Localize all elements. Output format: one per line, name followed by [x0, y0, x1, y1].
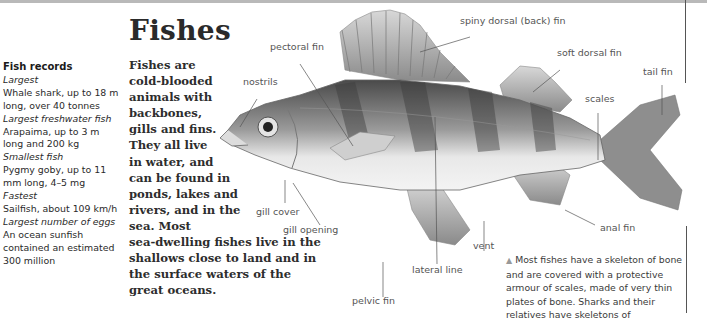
label-pectoral-fin: pectoral fin [270, 41, 324, 52]
record-value: Arapaima, up to 3 m long and 200 kg [3, 126, 121, 152]
record-label: Smallest fish [3, 151, 121, 164]
top-border [0, 0, 707, 3]
spiny-dorsal-fin-shape [340, 10, 470, 82]
record-label: Largest [3, 74, 121, 87]
record-label: Fastest [3, 190, 121, 203]
right-rule-top [685, 0, 686, 83]
record-smallest: Smallest fish Pygmy goby, up to 11 mm lo… [3, 151, 121, 190]
sidebar-heading: Fish records [3, 61, 121, 74]
record-largest-freshwater: Largest freshwater fish Arapaima, up to … [3, 113, 121, 152]
label-vent: vent [473, 240, 494, 251]
label-nostrils: nostrils [243, 76, 278, 87]
right-rule-bottom [686, 226, 687, 313]
record-value: An ocean sunfish contained an estimated … [3, 229, 121, 268]
label-spiny-dorsal-fin: spiny dorsal (back) fin [460, 15, 565, 26]
figure-caption: ▲ Most fishes have a skeleton of bone an… [506, 253, 686, 322]
record-largest: Largest Whale shark, up to 18 m long, ov… [3, 74, 121, 113]
record-value: Whale shark, up to 18 m long, over 40 to… [3, 87, 121, 113]
label-gill-cover: gill cover [256, 206, 299, 217]
record-label: Largest number of eggs [3, 216, 121, 229]
record-most-eggs: Largest number of eggs An ocean sunfish … [3, 216, 121, 268]
label-soft-dorsal-fin: soft dorsal fin [557, 47, 622, 58]
label-tail-fin: tail fin [643, 66, 673, 77]
triangle-marker-icon: ▲ [506, 256, 512, 265]
label-pelvic-fin: pelvic fin [352, 295, 395, 306]
label-lateral-line: lateral line [412, 264, 463, 275]
fish-records-sidebar: Fish records Largest Whale shark, up to … [3, 61, 121, 268]
record-label: Largest freshwater fish [3, 113, 121, 126]
intro-text-part1: Fishes are cold-blooded animals with bac… [129, 57, 223, 170]
label-gill-opening: gill opening [283, 224, 338, 235]
caption-text: Most fishes have a skeleton of bone and … [506, 254, 682, 320]
record-fastest: Fastest Sailfish, about 109 km/h [3, 190, 121, 216]
record-value: Pygmy goby, up to 11 mm long, 4–5 mg [3, 164, 121, 190]
record-value: Sailfish, about 109 km/h [3, 203, 121, 216]
label-scales: scales [585, 93, 614, 104]
label-anal-fin: anal fin [600, 222, 635, 233]
